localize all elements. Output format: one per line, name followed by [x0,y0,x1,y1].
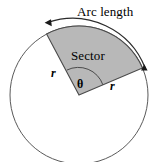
sector-diagram: Arc length Sector r r θ [0,0,157,162]
central-angle-label: θ [77,78,83,90]
radius-left-label: r [51,67,56,79]
arc-length-label: Arc length [77,5,133,18]
radius-right-label: r [110,80,115,92]
arc-length-arrowhead-left [45,19,52,26]
sector-label: Sector [71,49,105,62]
